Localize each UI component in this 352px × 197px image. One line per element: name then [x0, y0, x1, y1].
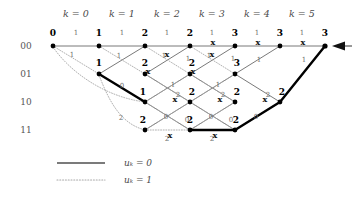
node-00-k3	[188, 44, 193, 49]
branch-metric: 2	[119, 114, 123, 122]
branch-metric: 1	[165, 29, 169, 37]
path-metric: 3	[232, 28, 238, 38]
dedge-00-01-k0	[53, 46, 99, 74]
branch-metric: 0	[209, 113, 213, 121]
path-metric: 3	[322, 28, 328, 38]
node-11-k3	[188, 128, 193, 133]
node-11-k4	[233, 128, 238, 133]
state-label-11: 11	[20, 125, 31, 135]
arrow-head-icon	[332, 42, 345, 51]
branch-metric: 1	[255, 29, 259, 37]
prune-x-icon: x	[165, 49, 170, 59]
edge-01-10-k4	[235, 74, 280, 102]
legend-lines	[57, 163, 105, 180]
path-metric: 3	[277, 28, 283, 38]
prune-x-icon: x	[256, 37, 261, 47]
path-metric: 1	[96, 28, 102, 38]
node-00-k6	[322, 43, 327, 48]
prune-x-icon: x	[168, 130, 173, 140]
node-01-k1	[97, 72, 102, 77]
path-metric: 2	[140, 115, 146, 125]
branch-metric: 1	[117, 52, 121, 60]
stage-label-k4: k = 4	[244, 8, 270, 19]
stage-label-k0: k = 0	[63, 8, 89, 19]
path-metric: 0	[50, 28, 56, 38]
survivor-seg-4	[280, 46, 325, 102]
state-label-00: 00	[20, 41, 31, 51]
path-metric: 2	[142, 28, 148, 38]
node-10-k5	[278, 100, 283, 105]
node-00-k0	[51, 44, 56, 49]
termination-arrow	[332, 42, 352, 51]
prune-x-icon: x	[301, 37, 306, 47]
trellis-figure: k = 0 k = 1 k = 2 k = 3 k = 4 k = 5 00 0…	[0, 0, 352, 197]
path-metric: 2	[234, 87, 240, 97]
prune-x-icon: x	[146, 66, 151, 76]
branch-metric: 1	[216, 81, 220, 89]
prune-x-icon: x	[191, 66, 196, 76]
stage-label-k3: k = 3	[199, 8, 225, 19]
prune-x-icon: x	[218, 94, 223, 104]
branch-metric: 0	[164, 113, 168, 121]
legend-label-u0: uₖ = 0	[124, 158, 152, 168]
node-00-k5	[278, 44, 283, 49]
node-00-k2	[143, 44, 148, 49]
state-label-10: 10	[20, 97, 31, 107]
prune-x-icon: x	[173, 94, 178, 104]
prune-x-icon: x	[210, 49, 215, 59]
stage-label-k2: k = 2	[154, 8, 180, 19]
path-metric: 2	[187, 28, 193, 38]
branch-metric: 0	[120, 82, 124, 90]
branch-metric: 1	[300, 29, 304, 37]
path-metric: 1	[140, 87, 146, 97]
node-10-k4	[233, 100, 238, 105]
branch-metric: 1	[74, 29, 78, 37]
branch-metric: 0	[185, 116, 189, 124]
branch-metric: 1	[171, 81, 175, 89]
branch-metric: 1	[186, 55, 190, 63]
state-label-01: 01	[20, 69, 31, 79]
node-00-k1	[97, 44, 102, 49]
branch-metric: 1	[257, 56, 261, 64]
branch-metric: 1	[70, 51, 74, 59]
path-metric: 2	[279, 87, 285, 97]
prune-x-icon: x	[211, 37, 216, 47]
prune-x-icon: x	[263, 94, 268, 104]
branch-metric: 0	[229, 116, 233, 124]
path-metric: 2	[189, 87, 195, 97]
path-metric: 2	[233, 115, 239, 125]
branch-metric: 1	[210, 29, 214, 37]
node-00-k4	[233, 44, 238, 49]
node-10-k3	[188, 100, 193, 105]
stage-label-k5: k = 5	[289, 8, 315, 19]
path-metric: 1	[96, 58, 102, 68]
prune-x-icon: x	[213, 130, 218, 140]
branch-metric: 1	[302, 56, 306, 64]
legend-label-u1: uₖ = 1	[124, 175, 152, 185]
branch-metric: 0	[254, 113, 258, 121]
stage-label-k1: k = 1	[109, 8, 135, 19]
node-10-k2	[143, 100, 148, 105]
branch-metric: 1	[120, 29, 124, 37]
node-01-k4	[233, 72, 238, 77]
node-11-k2	[143, 128, 148, 133]
branch-metric: 1	[231, 55, 235, 63]
